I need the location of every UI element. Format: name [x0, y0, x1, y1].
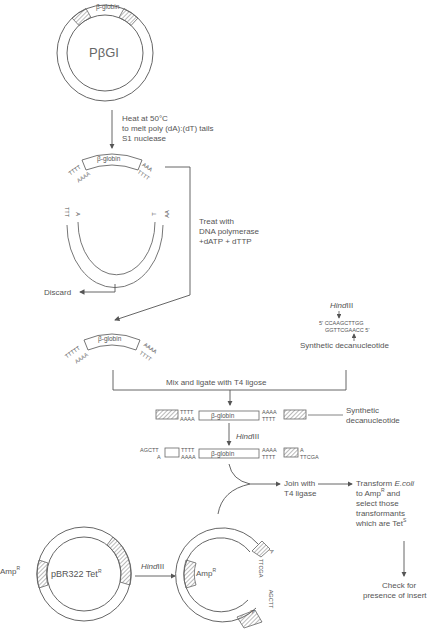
step5-line2: T4 ligase — [284, 489, 316, 499]
ligated-left-bottom: AAAA — [180, 416, 195, 422]
ligated-insert-label: β-globin — [211, 412, 234, 419]
hatched-tail-right — [119, 9, 138, 26]
fragment2-insert-label: β-globin — [98, 335, 121, 342]
digested-far-right-bottom: TTCGA — [300, 454, 319, 460]
cut-vector — [176, 528, 270, 628]
step1-line3: S1 nuclease — [122, 134, 166, 144]
ligated-right-bottom: TTTT — [262, 416, 275, 422]
step2-line1: Treat with — [199, 217, 234, 227]
linker-bottom-strand: GGTTCGAACC 5' — [325, 327, 369, 333]
step2-line2: DNA polymerase — [199, 227, 259, 237]
pbr-cut-enzyme: HindIII — [141, 562, 164, 572]
ligated-callout-line2: decanucleotide — [346, 416, 400, 426]
fragment1-insert-label: β-globin — [97, 155, 120, 162]
vector-right-inner: T — [151, 212, 157, 215]
pbgi-insert-label: β-globin — [96, 3, 119, 10]
ligated-right-top: AAAA — [262, 409, 277, 415]
discard-label: Discard — [44, 288, 71, 298]
step2-line3: +dATP + dTTP — [199, 237, 252, 247]
cut-vector-end1-b: TTCGA — [258, 559, 264, 578]
digested-left-bottom: AAAA — [181, 454, 196, 460]
pbr322-outer-label: AmpR — [0, 567, 20, 577]
step4-enzyme: HindIII — [236, 432, 259, 442]
hatched-tail-left — [72, 9, 91, 26]
step7-line1: Check for — [382, 581, 416, 591]
diagram-lines — [0, 0, 445, 634]
step5-line1: Join with — [284, 479, 315, 489]
pbgi-plasmid-name: PβGI — [89, 46, 119, 60]
step6-line4: transformants — [356, 509, 405, 519]
cut-vector-label: AmpR — [196, 569, 216, 579]
vector-left-inner: A — [75, 212, 81, 216]
pbr322-name: pBR322 TetR — [51, 569, 102, 579]
digested-far-left-bottom: A — [157, 454, 161, 460]
step7-line2: presence of insert — [363, 591, 427, 601]
ligated-callout-line1: Synthetic — [346, 406, 379, 416]
cut-vector-end2-a: AGCTT — [268, 590, 274, 609]
vector-fragment — [67, 222, 163, 288]
linker-label: Synthetic decanucleotide — [300, 341, 389, 351]
digested-right-bottom: TTTT — [262, 454, 275, 460]
digested-insert-label: β-globin — [211, 450, 234, 457]
digested-left-top: TTTT — [181, 447, 194, 453]
ligated-left-top: TTTT — [180, 409, 193, 415]
vector-right-outer: AA — [164, 210, 170, 217]
linker-top-strand: 5' CCAAGCTTGG — [319, 320, 363, 326]
vector-left-outer: TTT — [64, 207, 70, 217]
linker-enzyme: HindIII — [330, 301, 353, 311]
step1-line1: Heat at 50°C — [122, 114, 168, 124]
step6-line3: select those — [356, 499, 399, 509]
digested-far-right-top: A — [300, 447, 304, 453]
step3-label: Mix and ligate with T4 ligose — [166, 378, 266, 388]
step1-line2: to melt poly (dA):(dT) tails — [122, 124, 214, 134]
digested-right-top: AAAA — [262, 447, 277, 453]
step6-line5: which are TetS — [356, 519, 406, 529]
digested-far-left-top: AGCTT — [140, 447, 159, 453]
step6-line2: to AmpR and — [356, 489, 400, 499]
